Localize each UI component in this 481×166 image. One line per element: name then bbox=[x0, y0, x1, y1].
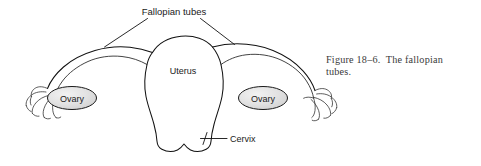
fallopian-tubes-leader-lines bbox=[105, 19, 235, 48]
ovary-left: Ovary bbox=[48, 87, 97, 110]
figure-caption-line-2: tubes. bbox=[326, 66, 476, 78]
cervix-leader-line bbox=[201, 133, 228, 145]
cervix-label: Cervix bbox=[230, 134, 256, 144]
figure-caption: Figure 18–6. The fallopian tubes. bbox=[326, 54, 476, 79]
uterus-outline bbox=[145, 36, 223, 151]
reproductive-tract-diagram: Ovary Ovary Fallopian tubes Uterus Cervi… bbox=[0, 0, 481, 166]
ovary-left-label: Ovary bbox=[60, 94, 85, 104]
fallopian-tubes-label: Fallopian tubes bbox=[142, 6, 207, 17]
ovary-right: Ovary bbox=[239, 87, 288, 110]
figure-caption-line-1: Figure 18–6. The fallopian bbox=[326, 54, 476, 66]
ovary-right-label: Ovary bbox=[251, 94, 276, 104]
figure-container: Ovary Ovary Fallopian tubes Uterus Cervi… bbox=[0, 0, 481, 166]
fimbriae-right bbox=[304, 89, 337, 121]
uterus-label: Uterus bbox=[170, 66, 197, 76]
